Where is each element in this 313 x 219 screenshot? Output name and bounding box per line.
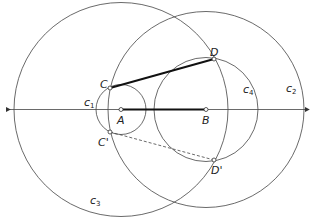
segment-CprimeDprime: [110, 132, 214, 160]
label-D-prime: D': [211, 164, 223, 177]
point-B: [204, 108, 208, 112]
label-c4: c4: [243, 83, 254, 97]
label-c2: c2: [286, 82, 297, 96]
label-c3: c3: [90, 194, 101, 208]
label-c1: c1: [84, 96, 95, 110]
point-C-prime: [108, 130, 112, 134]
label-C-prime: C': [98, 136, 109, 149]
point-A: [119, 108, 123, 112]
geometry-diagram: A B C D C' D' c1 c2 c3 c4: [0, 0, 313, 219]
label-B: B: [202, 114, 210, 127]
segment-CD: [110, 59, 214, 88]
point-D-prime: [212, 158, 216, 162]
label-A: A: [116, 114, 125, 127]
label-D: D: [210, 46, 218, 59]
diagram-canvas: A B C D C' D' c1 c2 c3 c4: [0, 0, 313, 219]
point-C: [108, 86, 112, 90]
label-C: C: [100, 78, 108, 91]
